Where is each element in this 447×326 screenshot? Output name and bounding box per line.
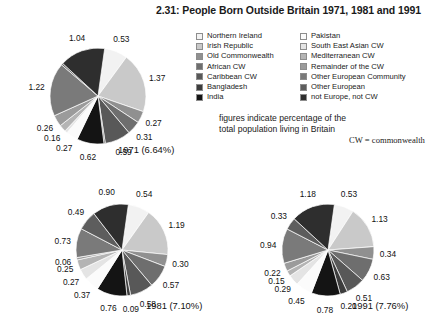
pie-slice-label: 0.27 (63, 277, 79, 287)
legend-item-label: Old Commonwealth (207, 51, 274, 61)
pie-slice-label: 0.29 (275, 284, 291, 294)
pie-slice-label: 0.78 (317, 305, 333, 315)
legend-swatch-icon (300, 84, 307, 91)
pie-slice-label: 1.18 (300, 189, 316, 199)
pie-slice-label: 0.30 (172, 259, 188, 269)
legend-item: Old Commonwealth (196, 51, 274, 61)
legend-item-label: Northern Ireland (207, 31, 262, 41)
figure-note: figures indicate percentage of the total… (219, 113, 346, 134)
legend-item: Caribbean CW (196, 72, 274, 82)
legend-item: Remainder of the CW (300, 62, 406, 72)
pie-slice-label: 0.62 (80, 152, 96, 162)
pie-caption-1991: 1991 (7.76%) (352, 300, 408, 311)
pie-slice-label: 0.22 (264, 268, 280, 278)
legend-item-label: African CW (207, 62, 245, 72)
page-title: 2.31: People Born Outside Britain 1971, … (156, 4, 421, 16)
legend-item-label: not Europe, not CW (311, 92, 378, 102)
legend-swatch-icon (300, 53, 307, 60)
legend-item: not Europe, not CW (300, 92, 406, 102)
pie-slice-label: 1.13 (371, 214, 387, 224)
legend-item: Pakistan (300, 31, 406, 41)
pie-slice-label: 0.54 (136, 189, 152, 199)
pie-slice-label: 0.90 (99, 187, 115, 197)
pie-slice-label: 0.33 (271, 211, 287, 221)
pie-slice-label: 1.22 (28, 82, 44, 92)
pie-slice-label: 0.57 (163, 280, 179, 290)
pie-caption-1981: 1981 (7.10%) (146, 300, 202, 311)
legend-swatch-icon (300, 94, 307, 101)
legend-item-label: Irish Republic (207, 41, 253, 51)
pie-slice-label: 0.31 (136, 132, 152, 142)
pie-slice-label: 1.37 (149, 73, 165, 83)
legend-swatch-icon (196, 53, 203, 60)
legend-item-label: India (207, 92, 223, 102)
pie-slice-label: 0.09 (123, 304, 139, 314)
pie-slice-label: 0.16 (44, 133, 60, 143)
pie-slice-label: 0.53 (113, 34, 129, 44)
legend-swatch-icon (196, 33, 203, 40)
pie-slice-label: 0.53 (341, 189, 357, 199)
legend-swatch-icon (300, 33, 307, 40)
legend-column-right: PakistanSouth East Asian CWMediterranean… (300, 31, 406, 102)
pie-slice-label: 0.26 (37, 123, 53, 133)
legend-item-label: Bangladesh (207, 82, 247, 92)
pie-slice-label: 0.63 (374, 272, 390, 282)
legend-item: Other European (300, 82, 406, 92)
pie-slice-label: 0.76 (100, 303, 116, 313)
pie-slice-label: 0.06 (55, 257, 71, 267)
legend-item-label: South East Asian CW (311, 41, 384, 51)
legend-item: Mediterranean CW (300, 51, 406, 61)
legend-item-label: Other European (311, 82, 365, 92)
legend-swatch-icon (300, 63, 307, 70)
pie-slice-label: 1.04 (69, 33, 85, 43)
legend-item: African CW (196, 62, 274, 72)
legend-swatch-icon (196, 73, 203, 80)
legend-swatch-icon (196, 43, 203, 50)
pie-slice-label: 0.27 (56, 143, 72, 153)
figure-note-line-1: figures indicate percentage of the (219, 113, 346, 124)
legend-swatch-icon (300, 73, 307, 80)
legend-item: India (196, 92, 274, 102)
legend-item: Bangladesh (196, 82, 274, 92)
pie-slice-label: 0.94 (260, 240, 276, 250)
pie-slice-label: 0.37 (74, 290, 90, 300)
pie-slice-label: 0.49 (68, 207, 84, 217)
legend-item-label: Pakistan (311, 31, 340, 41)
pie-slice-label: 0.27 (145, 118, 161, 128)
pie-caption-1971: 1971 (6.64%) (118, 144, 174, 155)
legend-item: Other European Community (300, 72, 406, 82)
pie-slice-label: 0.34 (380, 249, 396, 259)
pie-slice-label: 0.45 (288, 296, 304, 306)
figure-note-line-2: total population living in Britain (219, 124, 346, 135)
legend-swatch-icon (196, 63, 203, 70)
legend-item: Northern Ireland (196, 31, 274, 41)
legend-item-label: Remainder of the CW (311, 62, 384, 72)
legend-swatch-icon (196, 94, 203, 101)
pie-slice-label: 0.73 (55, 236, 71, 246)
legend-column-left: Northern IrelandIrish RepublicOld Common… (196, 31, 274, 102)
pie-slice-label: 1.19 (168, 220, 184, 230)
legend-swatch-icon (196, 84, 203, 91)
legend-swatch-icon (300, 43, 307, 50)
legend-item-label: Caribbean CW (207, 72, 257, 82)
legend-item: South East Asian CW (300, 41, 406, 51)
legend-item: Irish Republic (196, 41, 274, 51)
legend-item-label: Other European Community (311, 72, 406, 82)
legend-item-label: Mediterranean CW (311, 51, 375, 61)
commonwealth-abbreviation-note: CW = commonwealth (349, 135, 425, 145)
